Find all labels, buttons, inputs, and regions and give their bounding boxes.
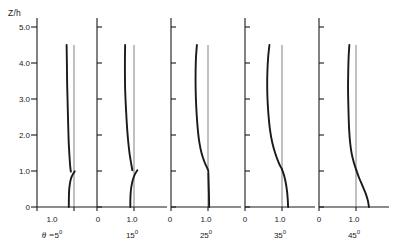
profile-figure: Z/h 5.0 4.0 3.0 2.0 1.0 0 1.0 0 1.0 0 1.… — [0, 0, 397, 244]
panel-3-wall-branch — [282, 169, 288, 207]
panel-4-profile-curve — [348, 45, 356, 170]
panel-4-wall-branch — [356, 170, 369, 207]
panel-0-profile-curve — [67, 45, 71, 172]
panel-2-profile-curve — [196, 45, 209, 171]
plot-canvas — [0, 0, 397, 244]
panel-1-profile-curve — [125, 45, 132, 170]
panel-2-wall-branch — [208, 173, 209, 207]
panel-3-profile-curve — [267, 45, 282, 169]
